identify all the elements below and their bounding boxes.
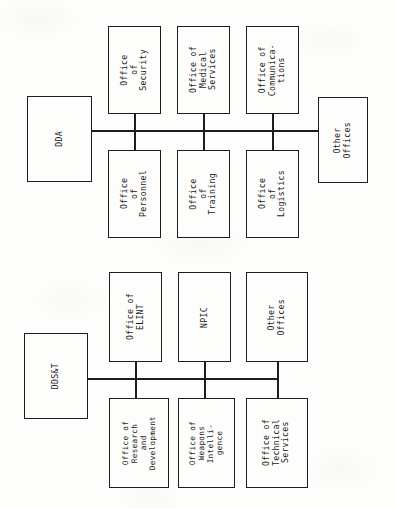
node-office-of-logistics[interactable]: Office of Logistics <box>246 150 299 238</box>
node-office-of-communications[interactable]: Office of Communica- tions <box>246 26 299 114</box>
stem-dda-1 <box>134 114 136 150</box>
node-dda[interactable]: DDA <box>27 96 92 182</box>
node-office-of-logistics-label: Office of Logistics <box>258 170 287 217</box>
node-office-of-technical-services-label: Office of Technical Services <box>262 419 291 466</box>
stem-dda-3 <box>272 114 274 150</box>
node-office-of-weapons-intelligence-label: Office of Weapons Intelli- gence <box>188 421 224 465</box>
node-office-of-security[interactable]: Office of Security <box>108 26 161 114</box>
node-office-of-research-and-development[interactable]: Office of Research and Development <box>109 398 169 488</box>
node-ddst[interactable]: DDS&T <box>24 333 88 419</box>
node-office-of-security-label: Office of Security <box>120 49 149 91</box>
organizational-chart-page: DDA Office of Security Office of Medical… <box>0 0 396 508</box>
stem-dda-2 <box>203 114 205 150</box>
node-dda-other-offices[interactable]: Other Offices <box>318 97 368 183</box>
node-office-of-communications-label: Office of Communica- tions <box>258 44 287 96</box>
node-office-of-elint[interactable]: Office of ELINT <box>109 272 162 362</box>
node-office-of-weapons-intelligence[interactable]: Office of Weapons Intelli- gence <box>178 398 235 488</box>
node-office-of-training-label: Office of Training <box>189 173 218 215</box>
node-office-of-elint-label: Office of ELINT <box>126 293 145 340</box>
node-ddst-other-offices-label: Other Offices <box>267 299 286 336</box>
node-dda-label: DDA <box>55 131 65 147</box>
node-office-of-training[interactable]: Office of Training <box>177 150 230 238</box>
trunk-ddst <box>88 378 278 380</box>
trunk-dda <box>92 130 318 132</box>
node-office-of-technical-services[interactable]: Office of Technical Services <box>246 398 308 488</box>
node-npic[interactable]: NPIC <box>178 272 231 362</box>
node-office-of-personnel-label: Office of Personnel <box>120 170 149 217</box>
node-office-of-research-and-development-label: Office of Research and Development <box>121 416 157 470</box>
node-ddst-other-offices[interactable]: Other Offices <box>246 272 308 362</box>
node-office-of-medical-services-label: Office of Medical Services <box>189 46 218 93</box>
node-dda-other-offices-label: Other Offices <box>333 122 352 159</box>
node-office-of-personnel[interactable]: Office of Personnel <box>108 150 161 238</box>
stem-ddst-3 <box>277 362 279 398</box>
node-office-of-medical-services[interactable]: Office of Medical Services <box>177 26 230 114</box>
stem-ddst-2 <box>204 362 206 398</box>
node-ddst-label: DDS&T <box>51 363 61 389</box>
node-npic-label: NPIC <box>200 307 210 328</box>
stem-ddst-1 <box>135 362 137 398</box>
